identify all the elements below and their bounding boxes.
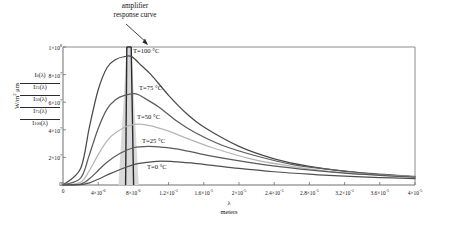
- plot-frame: [63, 47, 415, 185]
- y-axis-label: W/m2 μm: [12, 66, 20, 126]
- x-tick-label-5: 2×10-5: [222, 188, 256, 196]
- y-tick-label-2: 6×107: [38, 98, 62, 106]
- x-tick-label-4: 1.6×10-5: [187, 188, 221, 196]
- amplifier-response-annotation: amplifier response curve: [96, 2, 174, 20]
- x-axis-title: λ meters: [199, 198, 259, 216]
- curve-label-T0: T=0 °C: [147, 163, 167, 170]
- arrow-shaft: [126, 24, 147, 43]
- curve-label-T100: T=100 °C: [133, 47, 159, 54]
- series-curve-25C: [63, 146, 415, 185]
- curve-label-T50: T=50 °C: [137, 113, 160, 120]
- y-tick-label-1: 8×107: [38, 71, 62, 79]
- x-tick-label-9: 3.6×10-5: [363, 188, 397, 196]
- x-tick-label-6: 2.4×10-5: [257, 188, 291, 196]
- x-tick-label-7: 2.8×10-5: [292, 188, 326, 196]
- y-tick-label-0: 1×108: [38, 43, 62, 51]
- y-tick-label-4: 2×107: [38, 153, 62, 161]
- curve-label-T25: T=25 °C: [142, 137, 165, 144]
- y-tick-label-5: 0: [38, 181, 62, 187]
- annotation-line-2: response curve: [96, 11, 174, 20]
- x-tick-label-3: 1.2×10-5: [152, 188, 186, 196]
- annotation-arrow: [126, 24, 148, 45]
- curve-label-T75: T=75 °C: [139, 84, 162, 91]
- series-curve-100C: [63, 56, 415, 185]
- x-axis-symbol: λ: [199, 198, 259, 207]
- series-curves: [63, 56, 415, 185]
- x-axis-units: meters: [199, 207, 259, 216]
- series-curve-50C: [63, 124, 415, 185]
- annotation-line-1: amplifier: [96, 2, 174, 11]
- x-tick-label-2: 8×10-6: [116, 188, 150, 196]
- tick-marks: [63, 47, 415, 185]
- x-tick-label-8: 3.2×10-5: [328, 188, 362, 196]
- x-tick-label-1: 4×10-6: [81, 188, 115, 196]
- blackbody-radiation-chart: amplifier response curve W/m2 μm I0(λ) I…: [0, 0, 451, 228]
- x-tick-label-0: 0: [46, 188, 80, 194]
- x-tick-label-10: 4×10-5: [398, 188, 432, 196]
- y-tick-label-3: 4×107: [38, 126, 62, 134]
